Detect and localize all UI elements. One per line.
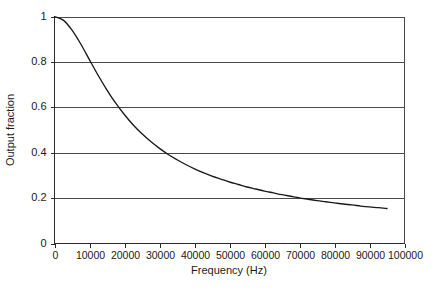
x-tick-label: 40000 <box>181 249 210 261</box>
plot-border-group <box>55 17 405 244</box>
x-tick-label: 90000 <box>356 249 385 261</box>
x-tick-label: 50000 <box>216 249 245 261</box>
y-tick-label: 0.2 <box>31 191 46 203</box>
y-tick-label: 0.8 <box>31 55 46 67</box>
gridlines-group <box>55 18 405 199</box>
x-tick-label: 80000 <box>321 249 350 261</box>
chart-container: 00.20.40.60.81 0100002000030000400005000… <box>0 0 432 292</box>
y-tick-label: 0 <box>40 237 46 249</box>
x-tick-marks-group <box>56 244 406 248</box>
x-tick-label: 60000 <box>251 249 280 261</box>
y-tick-label: 1 <box>40 10 46 22</box>
y-tick-marks-group <box>51 18 55 245</box>
x-tick-labels-group: 0100002000030000400005000060000700008000… <box>53 249 424 261</box>
x-axis-title: Frequency (Hz) <box>191 264 267 276</box>
x-tick-label: 70000 <box>286 249 315 261</box>
data-series-group <box>55 17 388 209</box>
y-tick-labels-group: 00.20.40.60.81 <box>31 10 46 249</box>
data-line-output-fraction <box>55 17 388 209</box>
y-tick-label: 0.4 <box>31 146 46 158</box>
x-tick-label: 100000 <box>388 249 423 261</box>
x-tick-label: 30000 <box>146 249 175 261</box>
x-tick-label: 20000 <box>111 249 140 261</box>
chart-canvas: 00.20.40.60.81 0100002000030000400005000… <box>0 0 432 292</box>
y-axis-title: Output fraction <box>4 94 16 166</box>
x-tick-label: 10000 <box>76 249 105 261</box>
y-tick-label: 0.6 <box>31 100 46 112</box>
x-tick-label: 0 <box>53 249 59 261</box>
